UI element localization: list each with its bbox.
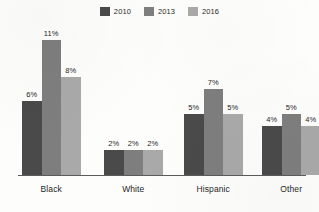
- bar-group-white: 2%2%2%: [104, 24, 163, 175]
- bar-rect[interactable]: [143, 150, 163, 175]
- bar-rect[interactable]: [282, 114, 302, 175]
- legend-entry-2010: 2010: [100, 7, 131, 16]
- bar-group-bars: 6%11%8%: [22, 24, 81, 175]
- bar-white-2010[interactable]: 2%: [104, 24, 124, 175]
- bar-value-label: 2%: [128, 140, 139, 148]
- bar-value-label: 2%: [147, 140, 158, 148]
- bar-rect[interactable]: [124, 150, 144, 175]
- bar-group-bars: 5%7%5%: [184, 24, 243, 175]
- bar-white-2016[interactable]: 2%: [143, 24, 163, 175]
- bar-value-label: 6%: [26, 91, 37, 99]
- legend-entry-2016: 2016: [188, 7, 219, 16]
- bar-other-2013[interactable]: 5%: [282, 24, 302, 175]
- bar-value-label: 2%: [108, 140, 119, 148]
- category-label-hispanic: Hispanic: [184, 184, 243, 194]
- category-label-white: White: [104, 184, 163, 194]
- bar-value-label: 5%: [227, 104, 238, 112]
- bar-group-bars: 4%5%4%: [262, 24, 319, 175]
- bar-black-2010[interactable]: 6%: [22, 24, 42, 175]
- legend-label-2010: 2010: [114, 8, 131, 16]
- bar-value-label: 7%: [208, 79, 219, 87]
- bar-other-2010[interactable]: 4%: [262, 24, 282, 175]
- bar-white-2013[interactable]: 2%: [124, 24, 144, 175]
- legend-entry-2013: 2013: [144, 7, 175, 16]
- bar-value-label: 8%: [65, 67, 76, 75]
- bar-value-label: 5%: [188, 104, 199, 112]
- bar-value-label: 4%: [305, 116, 316, 124]
- bar-black-2013[interactable]: 11%: [42, 24, 62, 175]
- bar-rect[interactable]: [184, 114, 204, 175]
- legend-swatch-2016: [188, 7, 198, 16]
- chart-legend: 2010 2013 2016: [0, 7, 319, 16]
- category-label-other: Other: [262, 184, 319, 194]
- category-label-black: Black: [22, 184, 81, 194]
- bar-group-other: 4%5%4%: [262, 24, 319, 175]
- bar-hispanic-2013[interactable]: 7%: [204, 24, 224, 175]
- bar-rect[interactable]: [301, 126, 319, 175]
- bar-rect[interactable]: [223, 114, 243, 175]
- bar-group-hispanic: 5%7%5%: [184, 24, 243, 175]
- bar-rect[interactable]: [42, 40, 62, 175]
- bar-chart: 2010 2013 2016 6%11%8%2%2%2%5%7%5%4%5%4%…: [0, 0, 319, 212]
- bar-other-2016[interactable]: 4%: [301, 24, 319, 175]
- bar-rect[interactable]: [204, 89, 224, 175]
- bar-rect[interactable]: [104, 150, 124, 175]
- x-axis-line: [18, 175, 306, 176]
- bar-hispanic-2016[interactable]: 5%: [223, 24, 243, 175]
- bar-value-label: 11%: [44, 30, 59, 38]
- bar-rect[interactable]: [262, 126, 282, 175]
- bar-hispanic-2010[interactable]: 5%: [184, 24, 204, 175]
- bar-value-label: 4%: [266, 116, 277, 124]
- bar-rect[interactable]: [61, 77, 81, 175]
- bar-group-bars: 2%2%2%: [104, 24, 163, 175]
- bar-rect[interactable]: [22, 101, 42, 175]
- bar-black-2016[interactable]: 8%: [61, 24, 81, 175]
- legend-label-2013: 2013: [158, 8, 175, 16]
- bar-value-label: 5%: [286, 104, 297, 112]
- legend-label-2016: 2016: [202, 8, 219, 16]
- bar-group-black: 6%11%8%: [22, 24, 81, 175]
- legend-swatch-2010: [100, 7, 110, 16]
- legend-swatch-2013: [144, 7, 154, 16]
- plot-area: 6%11%8%2%2%2%5%7%5%4%5%4%: [18, 24, 306, 175]
